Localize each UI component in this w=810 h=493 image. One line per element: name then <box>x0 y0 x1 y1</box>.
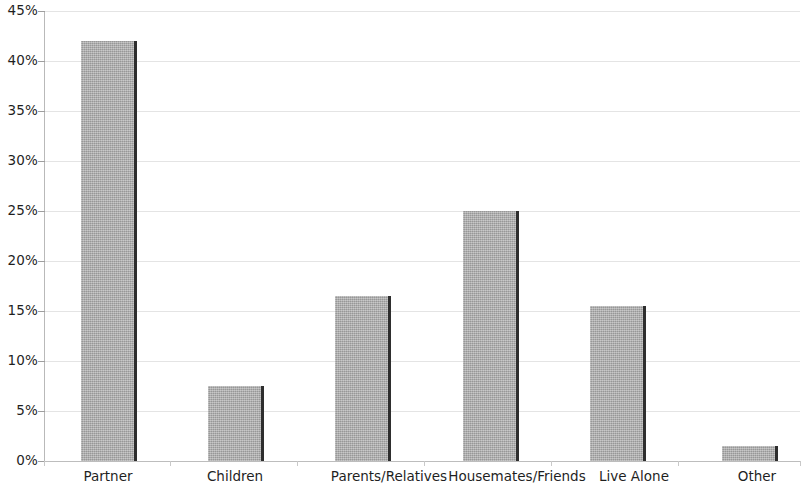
gridline-5 <box>44 411 800 412</box>
plot-area <box>44 11 800 461</box>
gridline-25 <box>44 211 800 212</box>
y-axis-label-0: 0% <box>0 454 38 468</box>
y-tick-10 <box>38 361 45 362</box>
bar-housemates-friends <box>463 211 519 461</box>
y-axis-label-15: 15% <box>0 304 38 318</box>
x-tick-mark-0 <box>44 461 45 466</box>
x-axis-label-children: Children <box>207 470 263 484</box>
y-tick-25 <box>38 211 45 212</box>
x-axis-label-other: Other <box>738 470 776 484</box>
x-tick-mark-2 <box>297 461 298 466</box>
y-tick-20 <box>38 261 45 262</box>
y-axis-label-5: 5% <box>0 404 38 418</box>
y-tick-30 <box>38 161 45 162</box>
gridline-30 <box>44 161 800 162</box>
x-axis-label-partner: Partner <box>83 470 132 484</box>
y-tick-15 <box>38 311 45 312</box>
bar-live-alone <box>590 306 646 461</box>
x-axis-label-live-alone: Live Alone <box>599 470 669 484</box>
y-axis-label-30: 30% <box>0 154 38 168</box>
bar-chart: 45% 40% 35% 30% 25% 20% 15% 10% 5% 0% Pa… <box>0 0 810 493</box>
y-axis-label-45: 45% <box>0 4 38 18</box>
y-tick-40 <box>38 61 45 62</box>
bar-parents-relatives <box>335 296 391 461</box>
gridline-10 <box>44 361 800 362</box>
gridline-40 <box>44 61 800 62</box>
axis-baseline <box>44 461 800 462</box>
y-axis-label-10: 10% <box>0 354 38 368</box>
gridline-35 <box>44 111 800 112</box>
y-tick-45 <box>38 11 45 12</box>
gridline-20 <box>44 261 800 262</box>
y-axis-label-20: 20% <box>0 254 38 268</box>
x-tick-mark-3 <box>424 461 425 466</box>
gridline-15 <box>44 311 800 312</box>
bar-other <box>722 446 778 461</box>
x-tick-mark-4 <box>551 461 552 466</box>
x-axis-label-parents-relatives: Parents/Relatives <box>331 470 447 484</box>
x-axis-label-housemates-friends: Housemates/Friends <box>448 470 585 484</box>
x-tick-mark-6 <box>800 461 801 466</box>
y-axis-label-35: 35% <box>0 104 38 118</box>
x-tick-mark-5 <box>678 461 679 466</box>
bar-partner <box>81 41 137 461</box>
bar-children <box>208 386 264 461</box>
y-axis-line <box>44 11 45 462</box>
gridline-45 <box>44 11 800 12</box>
y-axis-label-40: 40% <box>0 54 38 68</box>
y-tick-5 <box>38 411 45 412</box>
x-tick-mark-1 <box>170 461 171 466</box>
y-axis-label-25: 25% <box>0 204 38 218</box>
y-tick-35 <box>38 111 45 112</box>
